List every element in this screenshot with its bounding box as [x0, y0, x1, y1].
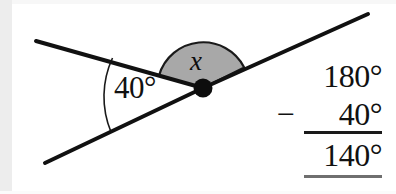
angle-40-label: 40°	[114, 72, 156, 103]
vertex-point	[194, 79, 213, 98]
geometry-figure-page: 40° x – 180° − 40° – 140°	[0, 0, 396, 194]
calc-minuend-value: 180°	[308, 57, 382, 95]
calc-row-difference: – 140°	[282, 136, 382, 174]
calc-difference-value: 140°	[308, 136, 382, 174]
calc-row-minuend: – 180°	[282, 57, 382, 95]
minus-sign-icon: −	[276, 95, 294, 133]
angle-40-arc	[104, 58, 113, 132]
calc-subtrahend-value: 40°	[308, 95, 382, 133]
calc-row-subtrahend: − 40°	[282, 95, 382, 133]
calc-answer-underline	[304, 175, 382, 178]
subtraction-work: – 180° − 40° – 140°	[282, 57, 382, 180]
angle-x-label: x	[190, 48, 202, 75]
